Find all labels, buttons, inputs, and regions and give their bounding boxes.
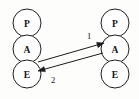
node-label: A — [112, 45, 119, 55]
node-right-a[interactable]: A — [101, 35, 129, 63]
node-right-p[interactable]: P — [101, 9, 129, 37]
edge-line[interactable] — [38, 43, 104, 62]
node-left-p[interactable]: P — [13, 9, 41, 37]
node-label: P — [24, 19, 30, 29]
edge-label-1: 1 — [87, 31, 91, 41]
edge-line[interactable] — [38, 53, 103, 71]
node-left-e[interactable]: E — [13, 60, 41, 88]
diagram-canvas: P A E P A E — [0, 0, 139, 99]
node-label: E — [112, 70, 118, 80]
node-label: A — [24, 45, 31, 55]
node-left-a[interactable]: A — [13, 35, 41, 63]
left-column: P A E — [13, 9, 41, 88]
edge-1-group[interactable]: 1 — [38, 31, 104, 62]
state-transition-diagram: P A E P A E — [0, 0, 139, 99]
edge-label-2: 2 — [51, 75, 55, 85]
right-column: P A E — [101, 9, 129, 88]
edge-2-group[interactable]: 2 — [38, 53, 103, 85]
node-right-e[interactable]: E — [101, 60, 129, 88]
node-label: P — [112, 19, 118, 29]
node-label: E — [24, 70, 30, 80]
